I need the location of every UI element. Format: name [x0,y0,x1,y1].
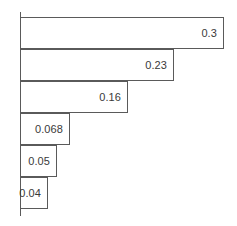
bar-value-label: 0.068 [35,124,69,135]
bars-container: 0.3 0.23 0.16 0.068 0.05 0.04 [20,17,237,209]
bar-value-label: 0.3 [201,28,223,39]
bar-row[interactable]: 0.16 [20,81,128,113]
bar-row[interactable]: 0.04 [20,177,48,209]
bar-row[interactable]: 0.05 [20,145,57,177]
bar-value-label: 0.05 [28,156,56,167]
bar-row[interactable]: 0.068 [20,113,70,145]
bar-value-label: 0.23 [145,60,173,71]
bar-value-label: 0.16 [99,92,127,103]
bar-row[interactable]: 0.3 [20,17,224,49]
bar-value-label: 0.04 [19,188,47,199]
bar-row[interactable]: 0.23 [20,49,174,81]
horizontal-bar-chart: 0.3 0.23 0.16 0.068 0.05 0.04 [0,0,237,226]
